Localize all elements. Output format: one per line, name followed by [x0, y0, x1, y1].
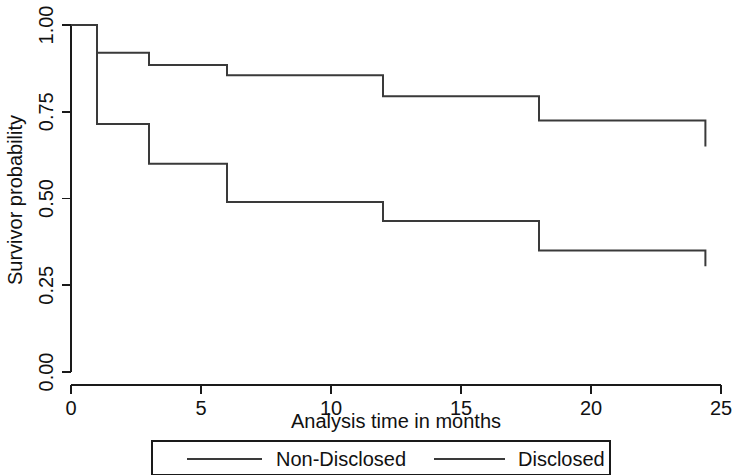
y-tick-label: 0.75 [35, 92, 57, 131]
survival-curves [71, 25, 705, 266]
x-tick-label: 0 [65, 397, 76, 419]
survival-curve-disclosed [71, 25, 705, 266]
x-tick-label: 25 [710, 397, 732, 419]
survival-curve-non-disclosed [71, 25, 705, 146]
y-tick-label: 0.00 [35, 353, 57, 392]
x-tick-label: 20 [580, 397, 602, 419]
y-tick-label: 0.25 [35, 266, 57, 305]
kaplan-meier-plot: 0.000.250.500.751.00 0510152025 Survivor… [0, 0, 741, 475]
legend-label-non-disclosed: Non-Disclosed [276, 448, 406, 470]
y-tick-label: 0.50 [35, 179, 57, 218]
x-axis-title: Analysis time in months [291, 410, 501, 432]
y-tick-label: 1.00 [35, 6, 57, 45]
y-axis-title: Survivor probability [4, 115, 26, 285]
chart-legend: Non-Disclosed Disclosed [152, 441, 610, 475]
legend-label-disclosed: Disclosed [518, 448, 605, 470]
x-tick-label: 5 [195, 397, 206, 419]
survival-chart-figure: 0.000.250.500.751.00 0510152025 Survivor… [0, 0, 741, 475]
y-axis-ticks: 0.000.250.500.751.00 [35, 6, 71, 392]
